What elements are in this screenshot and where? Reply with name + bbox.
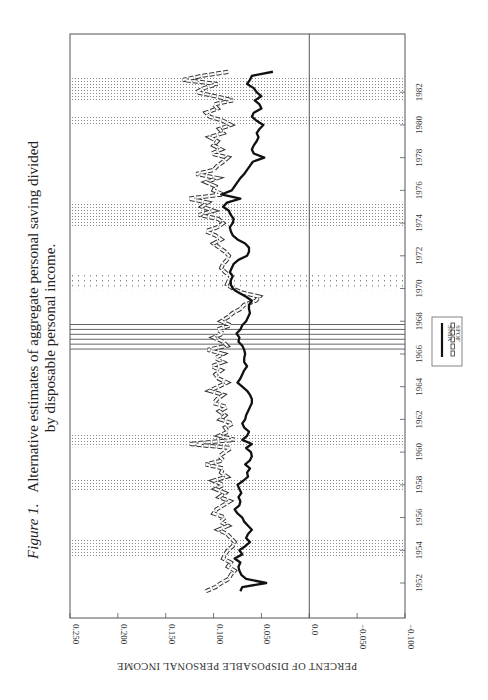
value-tick-label: 0.050 (262, 624, 272, 645)
value-axis-ticks: 0.2500.2000.1500.1000.0500.0−0.050−0.100 (70, 613, 416, 650)
snia-line (221, 72, 273, 591)
year-tick-label: 1952 (414, 574, 424, 592)
recession-band (71, 434, 404, 447)
recession-band (71, 77, 404, 100)
value-tick-label: 0.0 (310, 624, 320, 636)
figure-label: Figure 1. (25, 504, 41, 560)
year-tick-label: 1974 (414, 214, 424, 233)
sfof-line (183, 72, 260, 591)
recession-band (71, 202, 404, 227)
data-series (183, 72, 273, 591)
year-tick-label: 1964 (414, 377, 424, 396)
year-tick-label: 1976 (414, 181, 424, 200)
figure-title-line2: by disposable personal income. (42, 244, 58, 432)
year-tick-label: 1962 (414, 410, 424, 428)
legend: SNIA SFOF (432, 317, 462, 366)
value-tick-label: 0.200 (119, 624, 129, 645)
year-tick-label: 1958 (414, 475, 424, 494)
svg-text:Figure 1. Alternative es: Figure 1. Alternative estimates of aggre… (25, 141, 41, 560)
value-tick-label: 0.250 (71, 624, 81, 645)
year-tick-label: 1978 (414, 148, 424, 167)
figure-caption: Figure 1. Alternative estimates of aggre… (25, 141, 58, 560)
year-tick-label: 1970 (414, 279, 424, 298)
year-tick-label: 1972 (414, 247, 424, 265)
figure-title-line1: Alternative estimates of aggregate perso… (25, 141, 41, 493)
year-tick-label: 1960 (414, 443, 424, 462)
value-tick-label: 0.100 (215, 624, 225, 645)
recession-band (71, 115, 404, 125)
legend-label-sfof: SFOF (454, 325, 462, 342)
value-tick-label: 0.150 (167, 624, 177, 645)
value-tick-label: −0.100 (406, 624, 416, 650)
recession-band (71, 274, 404, 290)
value-axis-title: PERCENT OF DISPOSABLE PERSONAL INCOME (117, 661, 357, 672)
year-tick-label: 1956 (414, 508, 424, 527)
chart: Figure 1. Alternative estimates of aggre… (0, 0, 488, 700)
recession-band (71, 539, 404, 557)
year-tick-label: 1966 (414, 344, 424, 363)
year-tick-label: 1954 (414, 541, 424, 560)
legend-label-snia: SNIA (446, 325, 454, 341)
year-tick-label: 1982 (414, 83, 424, 101)
time-axis-ticks: 1952195419561958196019621964196619681970… (400, 83, 424, 592)
value-tick-label: −0.050 (358, 624, 368, 650)
year-tick-label: 1968 (414, 312, 424, 331)
year-tick-label: 1980 (414, 115, 424, 134)
